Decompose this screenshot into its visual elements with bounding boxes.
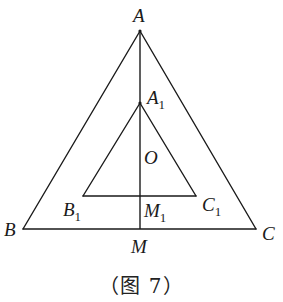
label-o: O <box>144 147 158 168</box>
triangle-diagram: A A1 O B1 M1 C1 B C M <box>0 0 283 302</box>
label-c: C <box>262 223 275 244</box>
label-a1: A1 <box>145 87 165 112</box>
label-b1: B1 <box>63 199 81 224</box>
point-a-dot <box>138 29 141 32</box>
label-m: M <box>130 236 148 257</box>
label-a: A <box>131 5 145 26</box>
figure-caption: （图 7） <box>0 270 283 299</box>
segment-a1b1 <box>83 103 140 196</box>
label-b: B <box>4 219 16 240</box>
label-m1: M1 <box>143 200 166 225</box>
label-c1: C1 <box>202 194 221 219</box>
point-a1-dot <box>138 101 141 104</box>
segment-ab <box>23 31 140 229</box>
